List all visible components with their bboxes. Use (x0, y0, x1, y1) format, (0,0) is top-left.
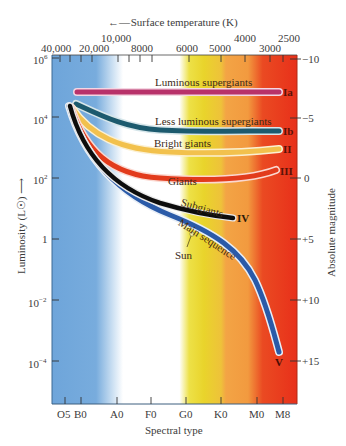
hr-diagram-plot (0, 0, 346, 446)
label-sun: Sun (175, 249, 192, 261)
spectral-tick-m0: M0 (249, 408, 264, 420)
lum-tick-1e6: 106 (33, 51, 48, 66)
mag-tick-plus5: +5 (302, 233, 314, 245)
mag-tick-plus15: +15 (302, 355, 319, 367)
up-arrow-icon: ⟶ (15, 178, 27, 194)
spectral-tick-b0: B0 (74, 408, 87, 420)
mag-tick-minus5: −5 (302, 112, 314, 124)
magnitude-axis-title: Absolute magnitude (325, 188, 337, 277)
class-ii: II (283, 143, 292, 155)
mag-tick-0: 0 (304, 172, 310, 184)
spectral-tick-g0: G0 (179, 408, 192, 420)
spectral-tick-f0: F0 (145, 408, 157, 420)
spectral-axis-title: Spectral type (145, 424, 203, 436)
spectral-tick-k0: K0 (214, 408, 227, 420)
class-ib: Ib (283, 125, 293, 137)
lum-tick-1e-4: 10−4 (28, 355, 46, 370)
lum-tick-1: 1 (42, 233, 48, 245)
label-less-luminous-supergiants: Less luminous supergiants (155, 115, 272, 127)
lum-tick-1e4: 104 (33, 111, 48, 126)
mag-tick-minus10: −10 (302, 53, 319, 65)
label-giants: Giants (168, 175, 197, 187)
spectral-tick-o5: O5 (57, 408, 70, 420)
lum-tick-1e2: 102 (33, 171, 48, 186)
class-iii: III (280, 165, 293, 177)
class-v: V (275, 356, 283, 368)
luminosity-axis-title: Luminosity (L☉) ⟶ (15, 178, 27, 274)
mag-tick-plus10: +10 (302, 294, 319, 306)
class-ia: Ia (283, 86, 293, 98)
lum-tick-1e-2: 10−2 (28, 294, 46, 309)
label-bright-giants: Bright giants (154, 137, 211, 149)
class-iv: IV (237, 212, 249, 224)
spectral-tick-a0: A0 (110, 408, 123, 420)
spectral-tick-m8: M8 (275, 408, 290, 420)
label-luminous-supergiants: Luminous supergiants (155, 76, 252, 88)
